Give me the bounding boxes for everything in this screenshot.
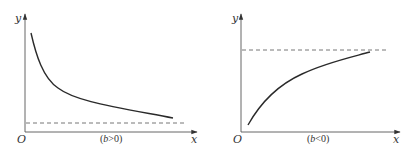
right-origin-label: O xyxy=(233,134,242,145)
left-curve xyxy=(31,33,173,118)
caption-value: 0) xyxy=(114,133,122,144)
left-caption: (b>0) xyxy=(100,134,122,144)
figure: y O x (b>0) y O x (b<0) xyxy=(0,0,415,158)
left-y-label: y xyxy=(15,13,21,24)
right-caption: (b<0) xyxy=(307,134,329,144)
left-origin-label: O xyxy=(17,134,26,145)
caption-value: 0) xyxy=(321,133,329,144)
right-curve xyxy=(248,52,370,125)
left-panel xyxy=(25,14,197,132)
right-x-label: x xyxy=(393,134,399,145)
right-y-label: y xyxy=(232,13,238,24)
right-panel xyxy=(241,14,400,132)
left-x-label: x xyxy=(191,134,197,145)
figure-graphics xyxy=(0,0,415,158)
